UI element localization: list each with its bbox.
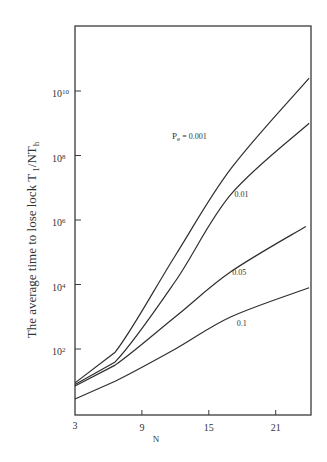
x-axis-title: N xyxy=(153,434,160,444)
series-line-0-001 xyxy=(75,78,309,383)
chart-canvas: 391521 1021041061081010 Pe = 0.0010.010.… xyxy=(0,0,327,462)
y-tick-label: 108 xyxy=(52,153,66,164)
x-axis-ticks: 391521 xyxy=(73,410,281,433)
y-tick-label: 1010 xyxy=(52,88,70,99)
y-tick-label: 102 xyxy=(52,346,66,357)
series-line-0-01 xyxy=(75,123,309,384)
plot-frame xyxy=(75,26,311,415)
x-tick-label: 9 xyxy=(139,422,144,433)
series-line-0-05 xyxy=(75,226,306,386)
y-tick-label: 104 xyxy=(52,282,66,293)
curve-label-0-1: 0.1 xyxy=(237,319,247,328)
y-tick-label: 106 xyxy=(52,217,66,228)
y-axis-title: The average time to lose lock T 1/NTh xyxy=(24,141,41,338)
x-tick-label: 3 xyxy=(73,420,78,431)
y-axis-ticks: 1021041061081010 xyxy=(52,88,81,357)
plot-border xyxy=(75,26,311,415)
series-line-0-1 xyxy=(75,288,309,399)
curve-label-0-05: 0.05 xyxy=(232,268,246,277)
curve-label-0-01: 0.01 xyxy=(234,190,248,199)
x-tick-label: 21 xyxy=(271,422,281,433)
series-lines xyxy=(75,78,309,399)
curve-label-0-001: Pe = 0.001 xyxy=(172,131,207,143)
x-tick-label: 15 xyxy=(204,422,214,433)
